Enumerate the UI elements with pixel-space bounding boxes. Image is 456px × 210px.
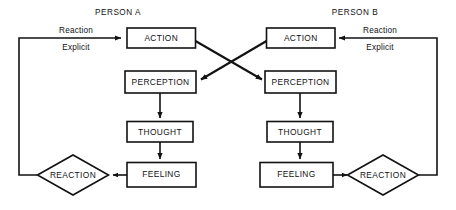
person-a-action-label: ACTION bbox=[144, 33, 178, 43]
person-b-reaction-edge-label: Reaction bbox=[363, 26, 397, 35]
person-a-feeling-node: FEELING bbox=[127, 163, 196, 188]
person-b-feeling-node: FEELING bbox=[260, 163, 333, 188]
person-a-explicit-edge-label: Explicit bbox=[62, 43, 90, 52]
person-a-action-node: ACTION bbox=[127, 28, 196, 48]
person-a-heading: PERSON A bbox=[95, 8, 141, 17]
person-a-thought-label: THOUGHT bbox=[138, 127, 182, 137]
person-b-thought-node: THOUGHT bbox=[267, 122, 333, 143]
person-b-heading: PERSON B bbox=[332, 8, 378, 17]
person-a-reaction-label: REACTION bbox=[50, 170, 96, 180]
person-a-perception-label: PERCEPTION bbox=[132, 77, 190, 87]
cross-channel-b-action-to-a-perception bbox=[201, 41, 267, 80]
cross-channel-a-action-to-b-perception bbox=[196, 41, 263, 80]
person-a-reaction-edge-label: Reaction bbox=[59, 26, 93, 35]
person-b-thought-label: THOUGHT bbox=[278, 127, 322, 137]
diagram-canvas: ACTION PERCEPTION THOUGHT FEELING REACTI… bbox=[0, 0, 456, 210]
person-a-perception-node: PERCEPTION bbox=[125, 71, 196, 93]
interpersonal-communication-diagram: ACTION PERCEPTION THOUGHT FEELING REACTI… bbox=[0, 0, 456, 210]
person-b-feeling-label: FEELING bbox=[277, 169, 315, 179]
person-b-perception-label: PERCEPTION bbox=[272, 77, 330, 87]
person-a-feedback-loop bbox=[19, 38, 121, 175]
person-b-feedback-loop bbox=[339, 38, 437, 175]
person-b-reaction-label: REACTION bbox=[360, 170, 406, 180]
person-b-action-label: ACTION bbox=[284, 33, 318, 43]
person-a-thought-node: THOUGHT bbox=[127, 122, 193, 143]
person-b-explicit-edge-label: Explicit bbox=[366, 43, 394, 52]
person-b-reaction-node: REACTION bbox=[348, 155, 419, 195]
person-b-action-node: ACTION bbox=[267, 28, 336, 48]
person-a-reaction-node: REACTION bbox=[38, 155, 109, 195]
person-a-feeling-label: FEELING bbox=[142, 169, 180, 179]
person-b-perception-node: PERCEPTION bbox=[265, 71, 336, 93]
